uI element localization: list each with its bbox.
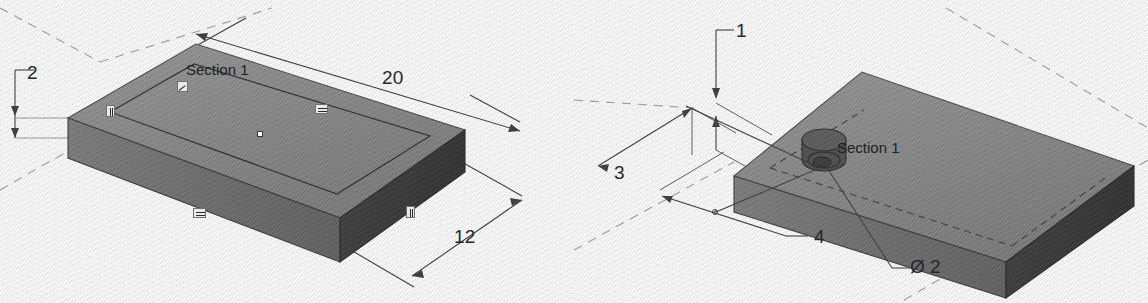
diameter-label: Ø 2 [910,256,941,278]
left-view-geometry [0,0,574,303]
dimension-label-hole-offset-x: 4 [814,226,825,248]
section-plane-icon[interactable] [177,81,188,92]
constraint-icon-vertical-left[interactable] [106,105,115,117]
sketch-origin-point[interactable] [257,131,263,137]
plate-hole-sketch-view: 1 3 4 Ø 2 Section 1 [574,0,1148,303]
dimension-label-hole-depth: 1 [736,20,747,42]
technical-drawing-canvas: 2 20 12 Section 1 [0,0,1148,303]
constraint-icon-equal-front[interactable] [193,208,206,218]
constraint-icon-vertical-right[interactable] [406,206,415,218]
dimension-label-thickness: 2 [27,62,38,84]
dimension-label-width: 12 [454,226,476,248]
constraint-icon-equal-right[interactable] [315,104,328,114]
dimension-label-length: 20 [382,67,404,89]
section-label-right: Section 1 [837,139,900,156]
dimension-label-hole-offset-y: 3 [614,162,625,184]
dimension-thickness-2 [11,70,68,138]
section-label-left: Section 1 [186,61,249,78]
plate-base-sketch-view: 2 20 12 Section 1 [0,0,574,303]
